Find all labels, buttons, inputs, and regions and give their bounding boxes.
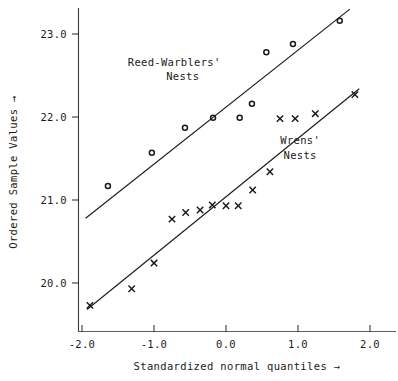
y-tick-label-23.0: 23.0: [41, 28, 68, 40]
data-point-cross[interactable]: [128, 286, 134, 292]
x-axis-ticks: -2.0-1.00.01.02.0: [69, 325, 380, 350]
data-point-cross[interactable]: [249, 187, 255, 193]
data-point-cross[interactable]: [169, 216, 175, 222]
y-tick-label-22.0: 22.0: [41, 111, 68, 123]
data-point-cross[interactable]: [267, 169, 273, 175]
annotation-label-2: Wrens': [280, 134, 320, 146]
series-annotations: Reed-Warblers'NestsWrens'Nests: [128, 56, 320, 161]
data-point-cross[interactable]: [277, 115, 283, 121]
data-point-cross[interactable]: [312, 110, 318, 116]
fit-line-series-0: [86, 9, 350, 218]
chart-canvas: 20.021.022.023.0 -2.0-1.00.01.02.0 Reed-…: [0, 0, 398, 381]
x-tick-label-1.0: 1.0: [288, 338, 308, 350]
x-tick-label-0.0: 0.0: [216, 338, 236, 350]
y-tick-label-20.0: 20.0: [41, 277, 68, 289]
data-point-cross[interactable]: [292, 115, 298, 121]
annotation-label-1: Nests: [166, 70, 199, 82]
data-point-circle[interactable]: [290, 41, 295, 46]
y-tick-label-21.0: 21.0: [41, 194, 68, 206]
fit-lines-group: [86, 9, 360, 309]
data-point-circle[interactable]: [149, 150, 154, 155]
y-axis-ticks: 20.021.022.023.0: [41, 28, 80, 289]
x-tick-label--1.0: -1.0: [141, 338, 168, 350]
annotation-label-0: Reed-Warblers': [128, 56, 221, 68]
data-point-cross[interactable]: [235, 203, 241, 209]
data-point-circle[interactable]: [182, 125, 187, 130]
y-axis-title: Ordered Sample Values →: [7, 95, 19, 248]
x-tick-label-2.0: 2.0: [360, 338, 380, 350]
data-point-cross[interactable]: [151, 260, 157, 266]
data-point-cross[interactable]: [197, 207, 203, 213]
axes-group: [79, 8, 397, 332]
x-tick-label--2.0: -2.0: [69, 338, 96, 350]
data-point-cross[interactable]: [182, 209, 188, 215]
data-point-circle[interactable]: [105, 183, 110, 188]
data-point-circle[interactable]: [237, 115, 242, 120]
data-point-circle[interactable]: [264, 50, 269, 55]
data-point-circle[interactable]: [337, 18, 342, 23]
fit-line-series-1: [87, 89, 359, 310]
data-point-circle[interactable]: [249, 101, 254, 106]
qq-plot-figure: 20.021.022.023.0 -2.0-1.00.01.02.0 Reed-…: [0, 0, 398, 381]
data-point-cross[interactable]: [223, 203, 229, 209]
x-axis-title: Standardized normal quantiles →: [134, 360, 341, 372]
annotation-label-3: Nests: [284, 149, 317, 161]
